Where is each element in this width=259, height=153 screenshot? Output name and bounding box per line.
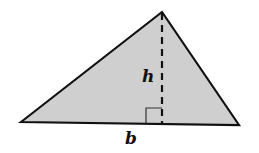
height-label: h: [142, 66, 154, 86]
base-label: b: [125, 128, 137, 148]
triangle: [21, 12, 239, 125]
triangle-diagram: h b: [0, 0, 259, 153]
